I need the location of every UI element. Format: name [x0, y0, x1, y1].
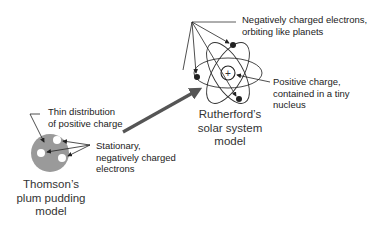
electron-callout-3: [192, 22, 236, 96]
thomson-positive-label: Thin distribution of positive charge: [48, 106, 122, 129]
rutherford-nucleus-label: Positive charge, contained in a tiny nuc…: [273, 76, 350, 111]
electron-3: [58, 154, 66, 162]
electron-callout-1: [192, 22, 229, 43]
electron-callout-2: [192, 22, 196, 73]
orbiting-electron-1: [230, 42, 236, 48]
electron-pointer-1: [63, 141, 90, 145]
positive-charge-pointer: [30, 114, 44, 142]
electron-callout-4: [183, 22, 192, 70]
orbiting-electron-3: [236, 96, 242, 102]
rutherford-title: Rutherford’s solar system model: [186, 108, 274, 149]
orbiting-electron-2: [194, 74, 200, 80]
nucleus-plus-sign: +: [225, 68, 231, 79]
thomson-electrons-label: Stationary, negatively charged electrons: [96, 140, 176, 175]
electron-2: [37, 149, 45, 157]
thomson-title: Thomson’s plum pudding model: [11, 178, 91, 219]
electron-1: [53, 136, 61, 144]
plum-pudding-body: [31, 134, 69, 172]
rutherford-electrons-label: Negatively charged electrons, orbiting l…: [242, 14, 367, 37]
